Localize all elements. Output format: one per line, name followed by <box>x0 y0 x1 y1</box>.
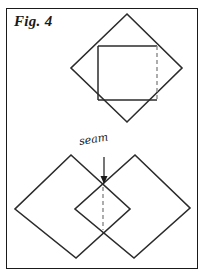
top-panel <box>71 14 182 122</box>
left-diamond <box>15 155 130 258</box>
outer-diamond <box>71 14 182 122</box>
figure-container: Fig. 4 seam <box>0 0 206 279</box>
page-title: Fig. 4 <box>14 14 52 29</box>
bottom-panel <box>15 155 190 258</box>
